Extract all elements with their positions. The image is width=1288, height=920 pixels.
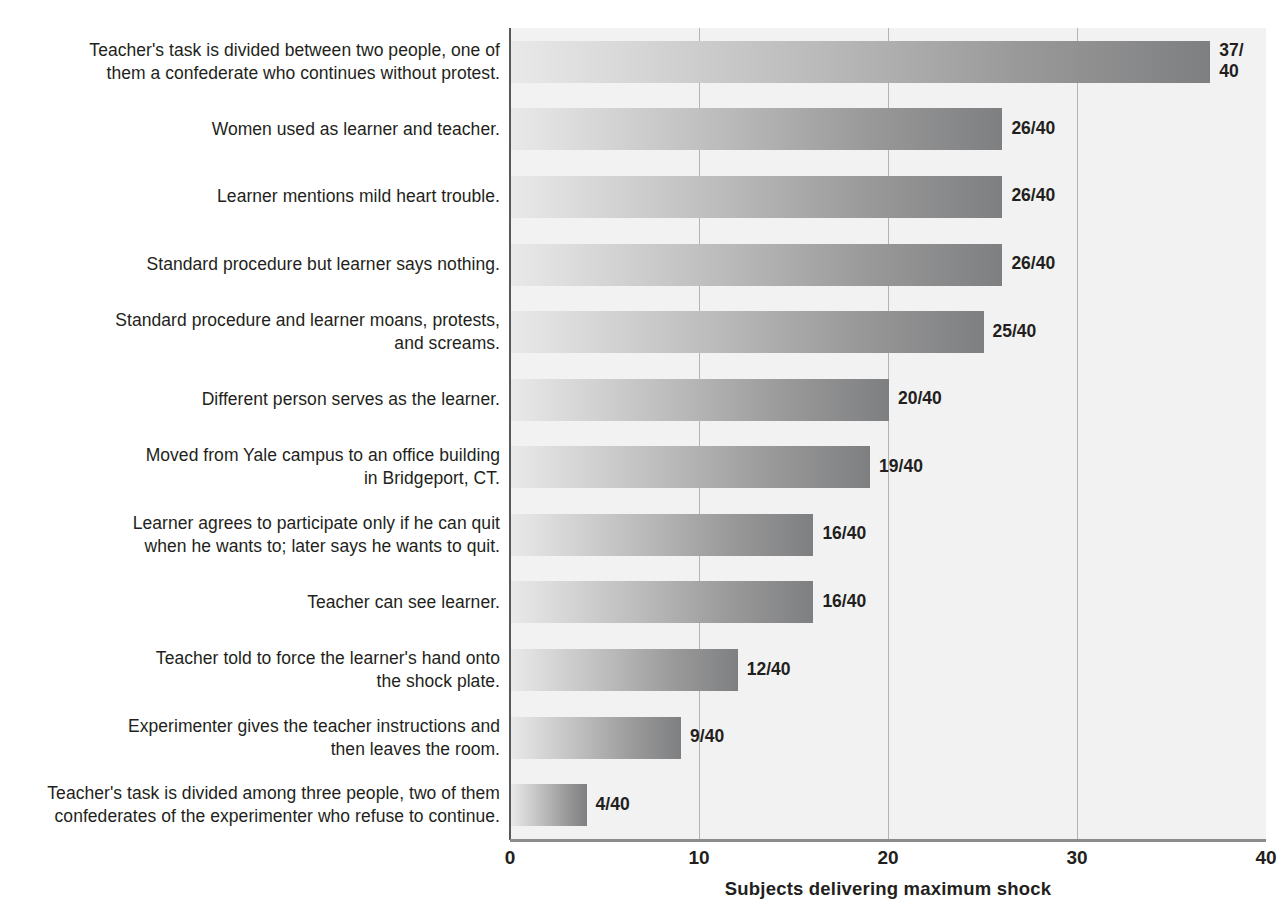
x-axis-line [510,839,1266,842]
bar-value-label: 16/40 [822,523,866,544]
category-label: Experimenter gives the teacher instructi… [8,715,500,761]
category-label: Moved from Yale campus to an office buil… [8,444,500,490]
bar [511,311,984,353]
x-axis-title: Subjects delivering maximum shock [510,878,1266,900]
bar [511,244,1002,286]
bar-value-label: 16/40 [822,591,866,612]
bar [511,379,889,421]
gridline-30 [1077,28,1078,840]
category-label: Learner agrees to participate only if he… [8,512,500,558]
bar [511,784,587,826]
bar-value-label: 26/40 [1011,253,1055,274]
bar [511,176,1002,218]
category-label: Teacher's task is divided among three pe… [8,782,500,828]
x-tick-label: 10 [688,847,709,869]
bar-value-label: 9/40 [690,726,724,747]
bar-value-label: 20/40 [898,388,942,409]
x-tick-label: 20 [877,847,898,869]
bar-value-label: 26/40 [1011,118,1055,139]
category-label: Teacher told to force the learner's hand… [8,647,500,693]
bar-value-label: 4/40 [596,794,630,815]
bar-value-label: 25/40 [993,321,1037,342]
x-tick-label: 30 [1066,847,1087,869]
category-label: Teacher can see learner. [8,591,500,614]
bar [511,41,1210,83]
bar [511,717,681,759]
bar [511,446,870,488]
category-label: Standard procedure and learner moans, pr… [8,309,500,355]
bar [511,108,1002,150]
bar-value-label: 19/40 [879,456,923,477]
category-label: Women used as learner and teacher. [8,118,500,141]
bar [511,649,738,691]
category-label: Learner mentions mild heart trouble. [8,185,500,208]
category-label: Different person serves as the learner. [8,388,500,411]
bar-value-label: 26/40 [1011,185,1055,206]
x-tick-label: 40 [1255,847,1276,869]
x-tick-label: 0 [505,847,516,869]
bar-chart: Teacher's task is divided between two pe… [0,0,1288,920]
bar-value-label: 12/40 [747,659,791,680]
bar [511,581,813,623]
bar-value-label: 37/ 40 [1219,40,1243,82]
category-label: Teacher's task is divided between two pe… [8,39,500,85]
bar [511,514,813,556]
category-label: Standard procedure but learner says noth… [8,253,500,276]
